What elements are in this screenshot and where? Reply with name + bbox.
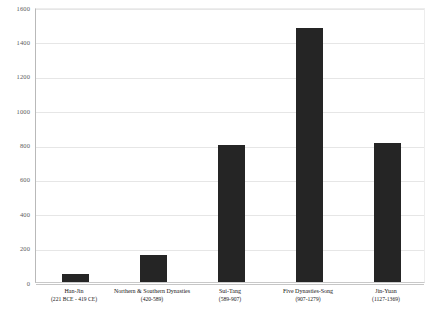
gridline bbox=[36, 9, 424, 10]
category-name: Han-Jin bbox=[35, 287, 113, 295]
category-name: Jin-Yuan bbox=[347, 287, 425, 295]
x-axis-category-label: Five Dynasties-Song(907-1279) bbox=[269, 287, 347, 303]
bar bbox=[296, 28, 323, 282]
y-axis-tick-label: 0 bbox=[0, 280, 30, 287]
x-axis-category-label: Jin-Yuan(1127-1369) bbox=[347, 287, 425, 303]
x-axis-category-label: Northern & Southern Dynasties(420-589) bbox=[113, 287, 191, 303]
bar-chart-figure: 02004006008001000120014001600 Han-Jin(22… bbox=[0, 0, 436, 313]
gridline bbox=[36, 78, 424, 79]
bar bbox=[374, 143, 401, 282]
y-axis-tick-label: 600 bbox=[0, 176, 30, 183]
y-axis-tick-label: 1400 bbox=[0, 39, 30, 46]
x-axis-category-label: Sui-Tang(589-907) bbox=[191, 287, 269, 303]
gridline bbox=[36, 284, 424, 285]
category-period: (589-907) bbox=[191, 295, 269, 303]
y-axis-tick-label: 1200 bbox=[0, 73, 30, 80]
plot-area bbox=[35, 8, 425, 283]
bar bbox=[62, 274, 89, 282]
bar bbox=[218, 145, 245, 283]
y-axis-tick-label: 400 bbox=[0, 211, 30, 218]
category-name: Sui-Tang bbox=[191, 287, 269, 295]
x-axis-category-label: Han-Jin(221 BCE - 419 CE) bbox=[35, 287, 113, 303]
category-period: (907-1279) bbox=[269, 295, 347, 303]
category-period: (221 BCE - 419 CE) bbox=[35, 295, 113, 303]
category-period: (420-589) bbox=[113, 295, 191, 303]
category-name: Five Dynasties-Song bbox=[269, 287, 347, 295]
category-period: (1127-1369) bbox=[347, 295, 425, 303]
gridline bbox=[36, 112, 424, 113]
y-axis-tick-label: 800 bbox=[0, 142, 30, 149]
category-name: Northern & Southern Dynasties bbox=[113, 287, 191, 295]
y-axis-tick-label: 1000 bbox=[0, 108, 30, 115]
y-axis-tick-label: 200 bbox=[0, 245, 30, 252]
y-axis-tick-label: 1600 bbox=[0, 5, 30, 12]
gridline bbox=[36, 43, 424, 44]
bar bbox=[140, 255, 167, 283]
